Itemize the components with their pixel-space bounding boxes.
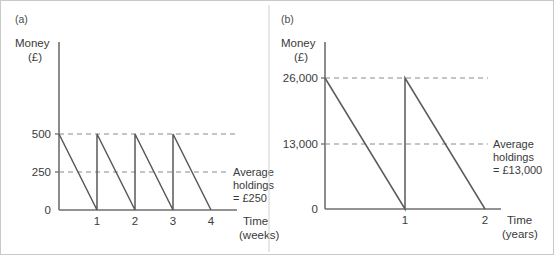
- panel-b-y-tick-label-2: 0: [312, 203, 318, 215]
- figure-svg: (a) Money (£) 500 250 0 1 2 3 4: [1, 1, 554, 255]
- panel-a-annotation-line2: holdings: [233, 179, 274, 191]
- panel-b-x-tick-label-1: 2: [482, 214, 488, 226]
- panel-a-x-axis-title-line2: (weeks): [239, 229, 279, 241]
- panel-b-y-axis-title-line2: (£): [294, 51, 308, 63]
- figure-container: (a) Money (£) 500 250 0 1 2 3 4: [0, 0, 554, 255]
- panel-a-y-axis-title-line2: (£): [28, 51, 42, 63]
- panel-b-label: (b): [281, 13, 294, 25]
- panel-a-y-tick-label-2: 0: [45, 204, 51, 216]
- panel-b-annotation-line1: Average: [493, 138, 534, 150]
- panel-b-x-axis-title-line1: Time: [507, 214, 532, 226]
- panel-a-annotation-line3: = £250: [233, 192, 267, 204]
- panel-b-x-axis-title-line2: (years): [502, 228, 538, 240]
- panel-b-y-tick-label-0: 26,000: [283, 72, 318, 84]
- panel-b-y-tick-label-1: 13,000: [283, 138, 318, 150]
- panel-a-y-axis-title-line1: Money: [15, 37, 50, 49]
- panel-b-annotation-line2: holdings: [493, 151, 534, 163]
- panel-a-annotation-line1: Average: [233, 166, 274, 178]
- panel-a-y-tick-label-1: 250: [32, 166, 51, 178]
- panel-a-label: (a): [15, 13, 28, 25]
- panel-b-x-tick-label-0: 1: [402, 214, 408, 226]
- panel-b-y-axis-title-line1: Money: [281, 37, 316, 49]
- panel-a-x-axis-title-line1: Time: [243, 215, 268, 227]
- panel-b-annotation-line3: = £13,000: [493, 164, 542, 176]
- panel-a: (a) Money (£) 500 250 0 1 2 3 4: [15, 13, 279, 241]
- panel-a-x-tick-label-3: 4: [208, 215, 215, 227]
- panel-a-y-tick-label-0: 500: [32, 128, 51, 140]
- panel-b: (b) Money (£) 26,000 13,000 0 1 2 Time: [281, 13, 542, 240]
- panel-a-x-tick-label-1: 2: [132, 215, 138, 227]
- panel-a-x-tick-label-2: 3: [170, 215, 176, 227]
- panel-a-x-tick-label-0: 1: [94, 215, 100, 227]
